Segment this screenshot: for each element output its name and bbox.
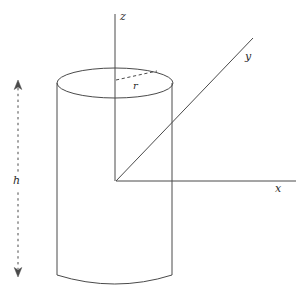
y-axis-label: y xyxy=(245,51,251,62)
cylinder-coordinate-diagram: z y x r h xyxy=(0,0,304,296)
y-axis-line xyxy=(116,38,253,181)
x-axis-label: x xyxy=(275,183,281,194)
z-axis-label: z xyxy=(120,11,126,22)
height-label: h xyxy=(13,175,20,186)
diagram-canvas xyxy=(0,0,304,296)
radius-dashed-line xyxy=(116,71,157,80)
radius-label: r xyxy=(133,81,138,91)
